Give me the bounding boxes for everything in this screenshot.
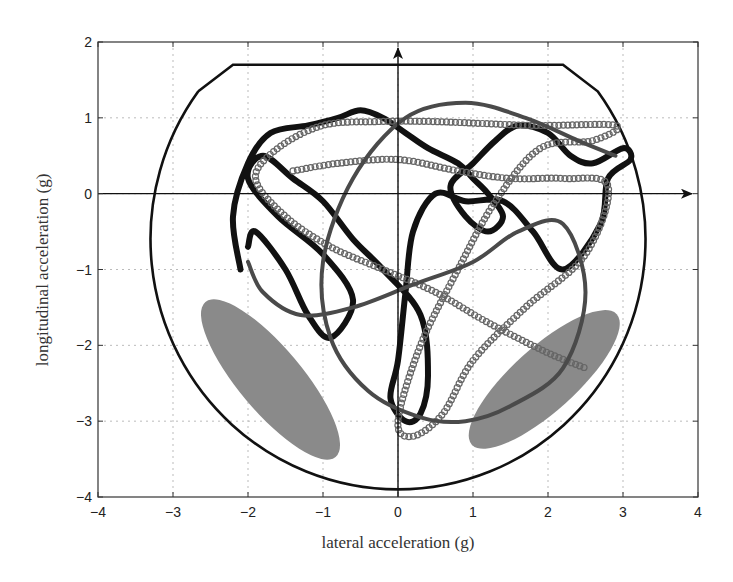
- x-tick-label: 3: [619, 504, 627, 520]
- y-tick-label: −2: [76, 337, 92, 353]
- y-tick-label: 2: [84, 34, 92, 50]
- x-tick-label: −2: [240, 504, 256, 520]
- x-tick-label: 2: [544, 504, 552, 520]
- y-tick-label: −4: [76, 489, 92, 505]
- x-axis-label: lateral acceleration (g): [322, 533, 475, 552]
- y-axis-label: longitudinal acceleration (g): [33, 174, 52, 367]
- y-tick-label: 1: [84, 110, 92, 126]
- y-tick-label: −3: [76, 413, 92, 429]
- chart: −4−3−2−101234−4−3−2−1012 lateral acceler…: [0, 0, 733, 582]
- x-tick-label: 0: [394, 504, 402, 520]
- x-tick-label: −1: [315, 504, 331, 520]
- x-tick-label: 4: [694, 504, 702, 520]
- y-tick-label: 0: [84, 186, 92, 202]
- x-tick-label: −3: [165, 504, 181, 520]
- y-tick-label: −1: [76, 262, 92, 278]
- x-tick-label: 1: [469, 504, 477, 520]
- x-tick-label: −4: [90, 504, 106, 520]
